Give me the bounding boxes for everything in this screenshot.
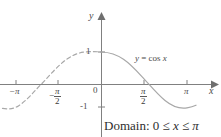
tick-label-y-one: 1 xyxy=(86,47,91,56)
fraction-denominator: 2 xyxy=(140,97,147,106)
cosine-graph-figure: y x 1 -1 −π − π 2 0 π 2 π y = cos x Doma… xyxy=(0,0,221,137)
fraction-denominator: 2 xyxy=(54,97,61,106)
domain-note: Domain: 0 ≤ x ≤ π xyxy=(104,118,199,134)
y-axis-arrowhead xyxy=(98,12,106,20)
x-axis-label: x xyxy=(209,86,213,96)
domain-prefix: Domain: 0 ≤ xyxy=(104,118,173,133)
curve-label-x: x xyxy=(163,53,167,63)
tick-label-y-neg-one: -1 xyxy=(80,102,88,111)
domain-suffix: ≤ π xyxy=(179,118,199,133)
tick-label-zero: 0 xyxy=(93,86,98,95)
curve-equation-label: y = cos x xyxy=(135,54,167,63)
y-axis-label: y xyxy=(89,11,93,21)
tick-label-pi: π xyxy=(184,87,189,96)
tick-label-neg-pi: −π xyxy=(9,87,20,96)
tick-label-half-pi: π 2 xyxy=(140,87,147,107)
minus-sign: − xyxy=(49,91,54,100)
curve-label-eq: = cos xyxy=(139,53,163,63)
tick-label-neg-half-pi: − π 2 xyxy=(49,87,61,107)
plot-area xyxy=(0,0,221,137)
